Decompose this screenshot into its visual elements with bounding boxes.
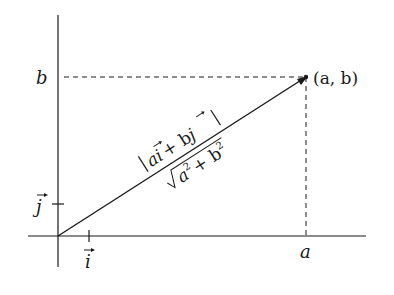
point-dot: [304, 75, 308, 79]
svg-text:j: j: [32, 196, 42, 217]
i-unit-label: i: [84, 248, 95, 272]
point-label: (a, b): [313, 68, 358, 88]
b-label: b: [36, 67, 48, 88]
svg-text:i: i: [85, 251, 91, 272]
a-label: a: [300, 241, 311, 262]
j-unit-label: j: [32, 193, 48, 217]
vector-diagram: b (a, b) a j i ai+ bj a2+ b2: [0, 0, 394, 295]
vector-line: [58, 77, 306, 236]
